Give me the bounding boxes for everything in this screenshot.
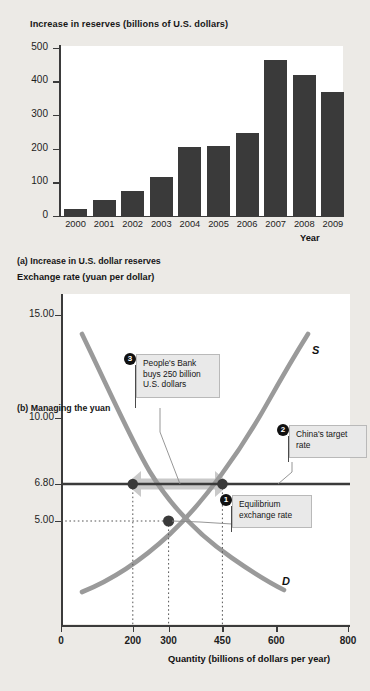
panel-a-ytick-200 xyxy=(53,149,60,150)
bar-2000 xyxy=(64,209,87,216)
callout-2-stem xyxy=(288,436,289,462)
panel-a-ylabel-100: 100 xyxy=(8,175,48,186)
panel-b-caption: (b) Managing the yuan xyxy=(17,403,110,413)
callout-3-line-3: U.S. dollars xyxy=(143,379,214,390)
callout-3-line-1: People's Bank xyxy=(143,358,214,369)
callout-3-badge: 3 xyxy=(124,353,136,365)
panel-a-caption: (a) Increase in U.S. dollar reserves xyxy=(17,256,161,266)
point-quantity-supplied xyxy=(217,479,227,489)
panel-a-ylabel-400: 400 xyxy=(8,74,48,85)
bar-2004 xyxy=(178,147,201,216)
bar-2006 xyxy=(236,133,259,216)
callout-1-line-2: exchange rate xyxy=(239,510,306,521)
callout-2-line-1: China's target xyxy=(296,429,361,440)
demand-curve-label: D xyxy=(282,575,290,587)
panel-b-supply-demand-chart: Exchange rate (yuan per dollar) 15.00 10… xyxy=(0,272,370,691)
panel-a-ytick-500 xyxy=(53,48,60,49)
bar-2009 xyxy=(321,92,344,216)
bar-2005 xyxy=(207,146,230,216)
panel-a-ylabel-500: 500 xyxy=(8,41,48,52)
callout-1-badge: 1 xyxy=(220,494,232,506)
bar-2008 xyxy=(293,75,316,216)
panel-a-bar-chart: Increase in reserves (billions of U.S. d… xyxy=(0,0,370,255)
panel-b-xaxis-title: Quantity (billions of dollars per year) xyxy=(168,654,330,664)
bar-2003 xyxy=(150,177,173,216)
supply-curve-label: S xyxy=(312,344,319,356)
bar-2001 xyxy=(93,200,116,216)
panel-a-ytick-0 xyxy=(53,216,60,217)
bar-2002 xyxy=(121,191,144,216)
point-quantity-demanded xyxy=(128,479,138,489)
bar-2007 xyxy=(264,60,287,216)
callout-2-leader xyxy=(278,462,292,484)
panel-a-ylabel-300: 300 xyxy=(8,108,48,119)
callout-2-box: China's target rate xyxy=(289,425,367,458)
callout-2-line-2: rate xyxy=(296,440,361,451)
callout-3-box: People's Bank buys 250 billion U.S. doll… xyxy=(136,354,220,398)
callout-1-line-1: Equilibrium xyxy=(239,499,306,510)
callout-3-leader xyxy=(160,408,180,484)
panel-a-xlabel-2009: 2009 xyxy=(313,219,353,229)
panel-a-ylabel-0: 0 xyxy=(8,209,48,220)
panel-b-graphics xyxy=(0,272,370,691)
panel-a-ylabel-200: 200 xyxy=(8,142,48,153)
panel-a-title: Increase in reserves (billions of U.S. d… xyxy=(30,19,228,29)
callout-3-line-2: buys 250 billion xyxy=(143,369,214,380)
panel-a-y-axis xyxy=(59,45,61,217)
figure-container: Increase in reserves (billions of U.S. d… xyxy=(0,0,370,691)
callout-1-box: Equilibrium exchange rate xyxy=(232,495,312,528)
callout-1-stem xyxy=(231,506,232,532)
panel-a-ytick-300 xyxy=(53,115,60,116)
panel-a-ytick-100 xyxy=(53,182,60,183)
callout-3-stem xyxy=(135,365,136,408)
panel-a-xaxis-title: Year xyxy=(300,233,320,243)
panel-a-ytick-400 xyxy=(53,81,60,82)
callout-2-badge: 2 xyxy=(277,424,289,436)
